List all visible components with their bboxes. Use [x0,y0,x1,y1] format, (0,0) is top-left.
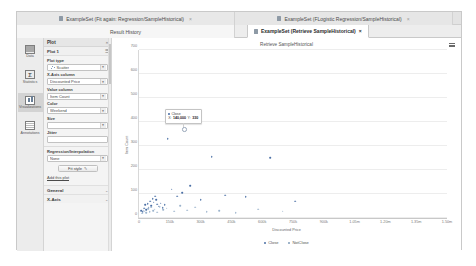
data-point[interactable] [152,210,154,212]
data-point[interactable] [179,205,181,207]
data-point[interactable] [156,211,158,213]
field-label: X-Axis column [47,72,108,77]
data-point[interactable] [164,204,166,206]
legend-item[interactable]: Close [264,240,278,245]
data-point[interactable] [190,185,192,187]
data-point[interactable] [171,188,173,190]
rail-item-annotations[interactable]: Annotations [18,119,43,138]
data-point[interactable] [157,203,159,205]
data-point[interactable] [152,198,154,200]
tab-result-history[interactable]: Result History [17,25,235,38]
data-point[interactable] [282,210,284,212]
data-point[interactable] [218,210,220,212]
data-point[interactable] [145,212,147,214]
size-select[interactable]: ▼ [47,122,108,129]
field-label: Jitter [47,130,108,135]
close-icon[interactable]: × [407,16,410,22]
data-point[interactable] [144,204,146,206]
data-point[interactable] [162,209,164,211]
tab-exampleset-retrieve[interactable]: ExampleSet (Retrieve SampleHistorical) × [247,25,369,38]
data-point[interactable] [166,208,168,210]
data-point[interactable] [160,202,162,204]
chevron-down-icon[interactable]: ▼ [100,122,106,127]
plot-type-select[interactable]: Scatter ▼ [47,64,108,71]
window-frame: ExampleSet (Fit again: Regression/Sample… [16,11,462,250]
legend-item[interactable]: NotClose [288,240,308,245]
plot-selector-label: Plot 1 [47,49,59,54]
close-icon[interactable]: × [359,28,362,34]
field-plot-type: Plot type Scatter ▼ [44,56,111,71]
close-icon[interactable]: × [189,16,192,22]
data-point[interactable] [167,138,169,140]
field-label: Value column [47,87,108,92]
regression-select[interactable]: None ▼ [47,155,108,162]
tab-label: ExampleSet (FLogistic Regression/SampleH… [284,16,401,22]
chevron-down-icon[interactable]: ▼ [100,79,106,84]
x-axis-tick: 450k [227,220,235,224]
tooltip-y-value: 330 [192,116,198,121]
panel-scrollbar[interactable] [108,38,111,251]
y-axis-tick: 400 [131,116,137,120]
plot-area[interactable]: 01002003004005006007000150k300k450k600k7… [138,50,447,219]
data-point[interactable] [153,202,155,204]
notes-icon [24,121,36,131]
data-point[interactable] [141,212,143,214]
rail-item-visualizations[interactable]: Visualizations [18,93,43,112]
section-label: X-Axis [47,197,61,202]
data-point[interactable] [181,192,183,194]
value-column-select[interactable]: Item Count ▼ [47,93,108,100]
chevron-down-icon[interactable]: ▼ [100,155,106,160]
window-body: Data Σ Statistics Visualizations [17,38,461,251]
chart-menu-icon[interactable] [449,42,455,48]
add-this-plot-link[interactable]: Add this plot [44,172,111,180]
series-color-dot [168,113,170,115]
chevron-down-icon[interactable]: ▼ [100,64,106,69]
y-axis-tick: 700 [131,44,137,48]
tab-exampleset-logistic-regression[interactable]: ExampleSet (FLogistic Regression/SampleH… [235,12,453,25]
section-general[interactable]: General ⌄ [44,185,111,194]
field-label: Regression/Interpolation [47,149,108,154]
data-point[interactable] [154,196,156,198]
data-point[interactable] [211,156,213,158]
section-label: General [47,188,63,193]
color-select[interactable]: Weekend ▼ [47,107,108,114]
table-icon [277,16,281,21]
data-point[interactable] [200,199,202,201]
fit-style-button[interactable]: Fit style ✎ [58,165,98,173]
data-point[interactable] [195,207,197,209]
data-point[interactable] [224,194,226,196]
section-x-axis[interactable]: X-Axis ⌄ [44,194,111,203]
chevron-down-icon[interactable]: ▼ [100,93,106,98]
data-point[interactable] [149,200,151,202]
chevron-down-icon[interactable]: ▼ [100,108,106,113]
tab-exampleset-fit-again[interactable]: ExampleSet (Fit again: Regression/Sample… [17,12,235,25]
data-point[interactable] [154,209,156,211]
data-point[interactable] [176,196,178,198]
x-axis-tick: 1.05m [349,220,360,224]
data-point[interactable] [149,211,151,213]
rail-item-data[interactable]: Data [18,42,43,61]
data-point[interactable] [245,196,247,198]
data-point[interactable] [173,210,175,212]
data-point[interactable] [206,211,208,213]
data-point[interactable] [235,212,237,214]
fit-style-label: Fit style [68,166,82,171]
x-axis-column-select[interactable]: Discounted Price ▼ [47,78,108,85]
rail-item-statistics[interactable]: Σ Statistics [18,68,43,87]
grid-line [139,193,447,194]
data-point[interactable] [155,199,157,201]
jitter-slider[interactable] [47,136,108,143]
data-point[interactable] [159,206,161,208]
data-point[interactable] [294,200,296,202]
field-value-column: Value column Item Count ▼ [44,85,111,100]
y-axis-tick: 500 [131,92,137,96]
x-axis-tick: 1.50m [442,220,453,224]
field-size: Size ▼ [44,114,111,129]
data-point[interactable] [147,208,149,210]
data-point[interactable] [147,203,149,205]
data-point[interactable] [257,209,259,211]
data-point[interactable] [186,210,188,212]
plot-selector-row[interactable]: Plot 1 ☰ [44,47,111,56]
data-point[interactable] [270,157,272,159]
data-point[interactable] [150,207,152,209]
